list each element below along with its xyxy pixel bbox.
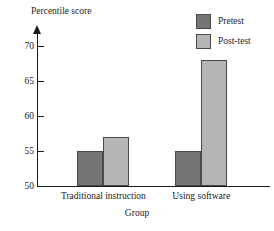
y-axis-title: Percentile score xyxy=(31,6,91,17)
bar-pretest-1 xyxy=(175,151,201,186)
legend-swatch-icon xyxy=(196,34,211,49)
legend-swatch-icon xyxy=(196,14,211,29)
x-axis-line xyxy=(37,186,270,187)
y-axis-tick-label: 50 xyxy=(12,181,34,191)
x-axis-title: Group xyxy=(0,207,274,219)
y-axis-tick-label: 55 xyxy=(12,146,34,156)
bar-chart: Percentile score 5055606570 Traditional … xyxy=(0,0,274,231)
legend-label: Post-test xyxy=(218,36,251,47)
y-axis-tick-label: 70 xyxy=(12,41,34,51)
bar-post-test-1 xyxy=(201,60,227,186)
y-axis-tick xyxy=(38,186,44,187)
x-axis-category-label: Using software xyxy=(131,190,271,202)
legend-label: Pretest xyxy=(218,16,244,27)
y-axis-tick-label: 65 xyxy=(12,76,34,86)
bar-post-test-0 xyxy=(103,137,129,186)
y-axis-tick-label: 60 xyxy=(12,111,34,121)
legend-item: Post-test xyxy=(196,31,251,51)
legend: PretestPost-test xyxy=(196,11,251,51)
plot-area xyxy=(37,32,270,186)
legend-item: Pretest xyxy=(196,11,251,31)
bar-pretest-0 xyxy=(77,151,103,186)
